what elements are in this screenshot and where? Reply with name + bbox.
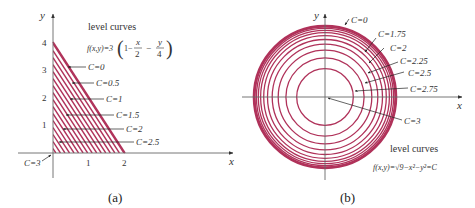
formula-prefix: f(x,y)=3 <box>87 44 113 53</box>
level-line <box>53 128 69 153</box>
label-c1: C=1 <box>106 94 123 104</box>
formula-one: 1− <box>124 44 133 53</box>
label-c2-25: C=2.25 <box>400 56 428 66</box>
level-line <box>53 58 115 153</box>
label-c2: C=2 <box>126 124 143 134</box>
x-axis-label: x <box>228 155 234 167</box>
label-c0-5: C=0.5 <box>96 78 120 88</box>
paren-close: ) <box>166 37 173 60</box>
frac-x-den: 2 <box>135 49 140 59</box>
frac-x-num: x <box>135 37 140 47</box>
paren-open: ( <box>117 37 124 60</box>
panel-b: y x C=0 C=1.75 C=2 C=2.25 C=2.5 C=2.75 C… <box>242 9 462 205</box>
label-c0: C=0 <box>351 15 368 25</box>
frac-y-num: y <box>157 37 162 47</box>
label-c0: C=0 <box>88 62 105 72</box>
label-c2-5: C=2.5 <box>408 68 432 78</box>
figure: y x 1 2 1 2 3 4 level curves f(x,y)=3 ( … <box>0 0 475 208</box>
label-c2-75: C=2.75 <box>410 84 438 94</box>
level-curves-title: level curves <box>390 143 438 154</box>
formula-a: f(x,y)=3 ( 1− x 2 − y 4 ) <box>87 37 173 60</box>
frac-y-den: 4 <box>157 49 162 59</box>
level-line <box>53 100 88 153</box>
label-c3: C=3 <box>404 116 421 126</box>
x-axis-label: x <box>456 99 462 111</box>
x-tick-1: 1 <box>86 158 91 168</box>
label-c1-5: C=1.5 <box>116 110 140 120</box>
level-line <box>53 121 74 153</box>
label-c3: C=3 <box>24 158 41 168</box>
level-line <box>53 86 97 153</box>
x-tick-2: 2 <box>122 158 127 168</box>
formula-b: f(x,y)=√9−x²−y²=C <box>373 163 438 172</box>
y-axis-label: y <box>313 9 319 21</box>
origin-leader <box>42 155 51 161</box>
y-tick-1: 1 <box>42 120 47 130</box>
y-tick-2: 2 <box>42 93 47 103</box>
level-line <box>53 107 83 153</box>
label-c2-5: C=2.5 <box>136 137 160 147</box>
y-tick-3: 3 <box>42 65 47 75</box>
caption-b: (b) <box>340 190 355 205</box>
caption-a: (a) <box>108 190 122 205</box>
formula-minus: − <box>146 43 151 53</box>
y-tick-4: 4 <box>42 38 47 48</box>
panel-a: y x 1 2 1 2 3 4 level curves f(x,y)=3 ( … <box>18 9 234 205</box>
label-c1-75: C=1.75 <box>378 29 406 39</box>
level-curves-title: level curves <box>88 21 136 32</box>
label-c2: C=2 <box>390 43 407 53</box>
y-axis-label: y <box>39 9 45 21</box>
